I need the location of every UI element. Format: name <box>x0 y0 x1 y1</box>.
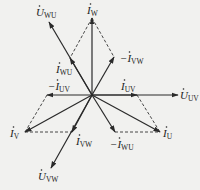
phasor-i-u <box>92 95 160 132</box>
label-u-vw: UVW <box>38 170 59 184</box>
phasor-arrows <box>25 18 178 168</box>
dashed-construction-line <box>137 95 160 132</box>
phasor-dot-icon <box>183 88 185 90</box>
phasor-dot-icon <box>166 126 168 128</box>
phasor-dot-icon <box>59 62 61 64</box>
phasor-dot-icon <box>119 137 121 139</box>
label-neg-i-vw: −IVW <box>120 52 145 66</box>
phasor-diagram: UUVUWUUVWIWIUIVIUV−IUVIWU−IVWIVW−IWU <box>0 0 200 190</box>
label-i-uv: IUV <box>120 80 136 94</box>
dashed-construction-line <box>70 18 92 58</box>
label-i-v: IV <box>9 127 20 141</box>
label-i-w: IW <box>86 4 99 18</box>
label-u-wu: UWU <box>36 6 57 20</box>
phasor-neg-i-wu <box>92 95 115 132</box>
label-i-wu: IWU <box>55 63 73 77</box>
phasor-dot-icon <box>13 126 15 128</box>
label-neg-i-uv: −IUV <box>48 80 71 94</box>
label-i-u: IU <box>162 127 173 141</box>
phasor-dot-icon <box>79 134 81 136</box>
phasor-dot-icon <box>39 5 41 7</box>
phasor-i-wu <box>70 58 92 95</box>
phasor-labels: UUVUWUUVWIWIUIVIUV−IUVIWU−IVWIVW−IWU <box>9 3 199 184</box>
label-u-uv: UUV <box>180 89 199 103</box>
phasor-neg-i-vw <box>92 57 114 95</box>
dashed-construction-line <box>92 18 114 57</box>
phasor-dot-icon <box>129 51 131 53</box>
phasor-dot-icon <box>124 79 126 81</box>
phasor-dot-icon <box>57 79 59 81</box>
label-neg-i-wu: −IWU <box>110 138 134 152</box>
phasor-dot-icon <box>90 3 92 5</box>
phasor-dot-icon <box>41 169 43 171</box>
label-i-vw: IVW <box>75 135 93 149</box>
